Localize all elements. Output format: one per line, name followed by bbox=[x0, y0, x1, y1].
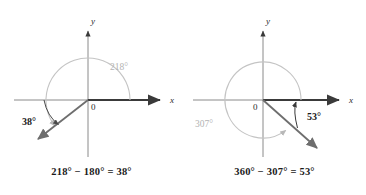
caption-left: 218° − 180° = 38° bbox=[0, 166, 183, 177]
rotation-angle-label: 307° bbox=[195, 119, 213, 129]
x-axis-label: x bbox=[348, 95, 353, 105]
caption-right: 360° − 307° = 53° bbox=[183, 166, 366, 177]
reference-angle-label: 53° bbox=[307, 111, 321, 122]
terminal-ray bbox=[263, 100, 317, 148]
figure-root: y x 0 218° 38° 218° − 180° = 38° bbox=[0, 0, 366, 195]
origin-label: 0 bbox=[91, 102, 96, 112]
y-axis-label: y bbox=[265, 16, 270, 26]
x-axis-label: x bbox=[169, 95, 174, 105]
diagram-panel-right: y x 0 307° 53° 360° − 307° = 53° bbox=[183, 0, 366, 195]
reference-angle-arc-53 bbox=[295, 102, 298, 128]
angle-diagram-right: y x 0 307° 53° bbox=[183, 0, 366, 165]
origin-label: 0 bbox=[253, 102, 258, 112]
angle-diagram-left: y x 0 218° 38° bbox=[0, 0, 183, 165]
y-axis-label: y bbox=[90, 16, 95, 26]
reference-angle-label: 38° bbox=[22, 116, 36, 127]
rotation-angle-label: 218° bbox=[110, 62, 128, 72]
diagram-panel-left: y x 0 218° 38° 218° − 180° = 38° bbox=[0, 0, 183, 195]
